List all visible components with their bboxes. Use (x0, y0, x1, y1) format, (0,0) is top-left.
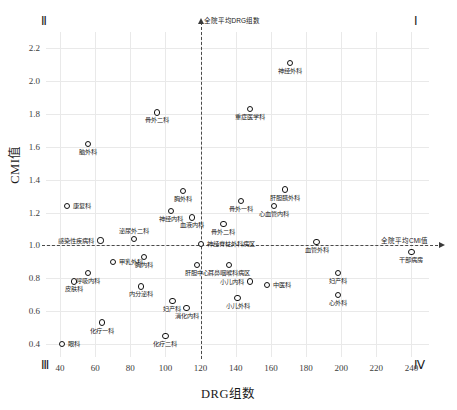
data-point-label: 泌尿外二科 (119, 228, 149, 234)
data-point-marker (85, 270, 91, 276)
y-tick-label: 0.8 (16, 273, 40, 283)
gridline-horizontal (46, 180, 429, 181)
x-tick-label: 40 (56, 363, 65, 373)
data-point-marker (183, 305, 189, 311)
quadrant-label-2: Ⅱ (41, 14, 47, 29)
y-tick-label: 1.0 (16, 240, 40, 250)
gridline-horizontal (46, 213, 429, 214)
data-point-marker (226, 262, 232, 268)
data-point-label: 脑外科 (79, 149, 97, 155)
data-point-label: 康复科 (73, 203, 91, 209)
plot-area: 406080100120140160180200220240 0.40.60.8… (46, 32, 429, 357)
data-point-label: 小儿内科 (220, 279, 244, 285)
data-point-label: 甲乳外科 (119, 259, 143, 265)
data-point-label: 呼吸内科 (76, 278, 100, 284)
data-point-marker (282, 186, 288, 192)
x-tick-label: 240 (405, 363, 419, 373)
data-point-marker (138, 283, 144, 289)
data-point-label: 神经外科 (278, 68, 302, 74)
data-point-label: 眼科 (68, 341, 80, 347)
data-point-label: 妇产科 (329, 278, 347, 284)
data-point-marker (99, 319, 105, 325)
data-point-label: 化疗二科 (153, 341, 177, 347)
x-tick-label: 60 (91, 363, 100, 373)
x-tick-label: 180 (299, 363, 313, 373)
data-point-marker (264, 282, 270, 288)
x-tick-label: 80 (126, 363, 135, 373)
data-point-marker (234, 295, 240, 301)
y-tick-label: 1.2 (16, 208, 40, 218)
data-point-marker (180, 188, 186, 194)
reference-line-label-cmi: 全院平均CMI值 (381, 235, 428, 245)
data-point-label: 内分泌科 (129, 291, 153, 297)
data-point-label: 干部病房 (399, 257, 423, 263)
x-tick-label: 140 (229, 363, 243, 373)
data-point-label: 感染性疾病科 (58, 238, 94, 244)
data-point-marker (335, 292, 341, 298)
data-point-marker (71, 278, 77, 284)
data-point-label: 重症医学科 (235, 114, 265, 120)
data-point-marker (97, 237, 103, 243)
data-point-marker (154, 109, 160, 115)
x-tick-label: 100 (159, 363, 173, 373)
data-point-label: 中医科 (273, 282, 291, 288)
gridline-horizontal (46, 311, 429, 312)
data-point-label: 皮肤科 (65, 286, 83, 292)
y-tick-label: 2.0 (16, 76, 40, 86)
data-point-marker (408, 249, 414, 255)
gridline-horizontal (46, 344, 429, 345)
data-point-marker (247, 278, 253, 284)
gridline-horizontal (46, 48, 429, 49)
data-point-marker (194, 262, 200, 268)
data-point-marker (169, 298, 175, 304)
data-point-marker (189, 214, 195, 220)
gridline-horizontal (46, 81, 429, 82)
data-point-label: 血液内科 (180, 222, 204, 228)
gridline-horizontal (46, 147, 429, 148)
data-point-marker (238, 198, 244, 204)
data-point-marker (247, 106, 253, 112)
y-tick-label: 1.8 (16, 109, 40, 119)
x-tick-label: 220 (370, 363, 384, 373)
y-tick-label: 1.4 (16, 175, 40, 185)
data-point-marker (198, 241, 204, 247)
data-point-label: 化疗一科 (90, 328, 114, 334)
quadrant-label-3: Ⅲ (41, 358, 49, 373)
data-point-label: 耳鼻咽喉科病区 (208, 270, 250, 276)
data-point-marker (64, 203, 70, 209)
data-point-label: 神经脊柱外科病区 (207, 241, 255, 247)
data-point-marker (162, 333, 168, 339)
data-point-marker (287, 60, 293, 66)
data-point-label: 消化内科 (175, 313, 199, 319)
reference-arrow-right-icon (439, 242, 445, 248)
reference-line-label-drg: 全院平均DRG组数 (204, 15, 260, 25)
x-tick-label: 120 (194, 363, 208, 373)
data-point-label: 肝胆中心 (185, 270, 209, 276)
data-point-label: 肝胆胰外科 (270, 195, 300, 201)
data-point-label: 心外科 (329, 300, 347, 306)
data-point-marker (271, 203, 277, 209)
y-tick-label: 1.6 (16, 142, 40, 152)
data-point-label: 胸外科 (174, 196, 192, 202)
x-tick-label: 160 (264, 363, 278, 373)
data-point-marker (131, 236, 137, 242)
y-tick-label: 0.6 (16, 306, 40, 316)
reference-line-vertical (201, 22, 202, 359)
y-tick-label: 2.2 (16, 43, 40, 53)
data-point-label: 骨外二科 (145, 117, 169, 123)
data-point-label: 心血管内科 (259, 211, 289, 217)
data-point-marker (59, 341, 65, 347)
data-point-marker (110, 259, 116, 265)
data-point-label: 小儿外科 (226, 303, 250, 309)
data-point-marker (220, 221, 226, 227)
data-point-marker (335, 270, 341, 276)
data-point-label: 血管外科 (305, 247, 329, 253)
quadrant-label-1: Ⅰ (414, 14, 418, 29)
scatter-chart: Ⅱ Ⅰ Ⅲ Ⅳ DRG组数 CMI值 406080100120140160180… (0, 0, 457, 410)
data-point-marker (85, 141, 91, 147)
data-point-marker (313, 239, 319, 245)
y-tick-label: 0.4 (16, 339, 40, 349)
x-axis-title: DRG组数 (0, 383, 457, 402)
data-point-label: 骨外一科 (229, 206, 253, 212)
data-point-label: 骨外二科 (211, 229, 235, 235)
